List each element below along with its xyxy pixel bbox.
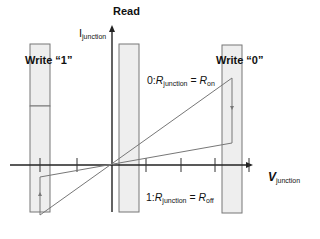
x-axis-label: Vjunction xyxy=(268,170,300,184)
read-label: Read xyxy=(113,5,140,17)
y-axis-label: Ijunction xyxy=(79,27,106,40)
read-band xyxy=(119,44,139,212)
state1-equation: 1:Rjunction = Roff xyxy=(146,191,214,204)
write1-label: Write “1” xyxy=(25,54,72,66)
y-axis-arrow-icon xyxy=(109,25,115,32)
write0-label: Write “0” xyxy=(216,54,263,66)
state0-equation: 0:Rjunction = Ron xyxy=(147,74,215,87)
